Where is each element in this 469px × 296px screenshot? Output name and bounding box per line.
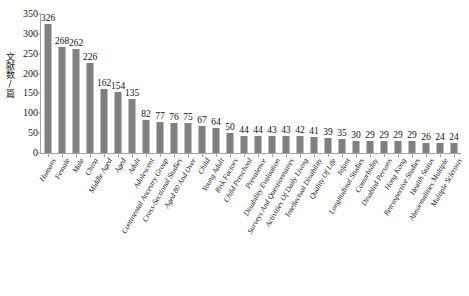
x-axis-category-label: Aged (113, 157, 128, 175)
bar-value-label: 44 (239, 125, 249, 135)
bar-value-label: 75 (183, 112, 193, 122)
bar-item: 41 (307, 14, 321, 153)
bar (213, 128, 220, 153)
bar (353, 141, 360, 153)
bar-value-label: 41 (309, 126, 319, 136)
bar-item: 82 (139, 14, 153, 153)
bar-value-label: 30 (351, 130, 361, 140)
bar-value-label: 39 (323, 127, 333, 137)
y-axis-tick-mark (38, 133, 41, 134)
bar-item: 24 (433, 14, 447, 153)
bar (283, 136, 290, 153)
bar-item: 76 (167, 14, 181, 153)
bar (339, 139, 346, 153)
bar-value-label: 43 (281, 125, 291, 135)
y-axis-tick-mark (38, 33, 41, 34)
bar-value-label: 29 (365, 130, 375, 140)
bar (185, 123, 192, 153)
bar (101, 89, 108, 153)
bar-item: 30 (349, 14, 363, 153)
bar-item: 44 (237, 14, 251, 153)
bar-value-label: 162 (97, 78, 111, 88)
y-axis-tick-label: 50 (28, 128, 38, 138)
bar-chart: 文献数/篇 050100150200250300350 326268262226… (0, 0, 469, 296)
bar-item: 135 (125, 14, 139, 153)
bar-value-label: 29 (379, 130, 389, 140)
bar-value-label: 154 (111, 81, 125, 91)
bar-item: 26 (419, 14, 433, 153)
bar (199, 126, 206, 153)
bar-item: 43 (265, 14, 279, 153)
y-axis-tick-labels: 050100150200250300350 (14, 14, 38, 153)
bar (437, 143, 444, 153)
bar-item: 42 (293, 14, 307, 153)
bar (409, 141, 416, 153)
bar-value-label: 44 (253, 125, 263, 135)
bar-item: 29 (363, 14, 377, 153)
bar-item: 262 (69, 14, 83, 153)
bar-item: 29 (405, 14, 419, 153)
bar-value-label: 35 (337, 128, 347, 138)
bar (451, 143, 458, 153)
bar-value-label: 82 (141, 109, 151, 119)
bar (395, 141, 402, 153)
bar-value-label: 29 (393, 130, 403, 140)
bar-item: 24 (447, 14, 461, 153)
bar-value-label: 24 (435, 132, 445, 142)
bar-value-label: 50 (225, 122, 235, 132)
y-axis-title: 文献数/篇 (1, 52, 15, 98)
y-axis-tick-label: 350 (23, 9, 38, 19)
bar (143, 120, 150, 153)
bar (269, 136, 276, 153)
bar (381, 141, 388, 153)
y-axis-tick-mark (38, 153, 41, 154)
bar-item: 77 (153, 14, 167, 153)
bar-value-label: 42 (295, 125, 305, 135)
bar-value-label: 43 (267, 125, 277, 135)
bar-item: 154 (111, 14, 125, 153)
bar (157, 122, 164, 153)
y-axis-tick-label: 300 (23, 29, 38, 39)
bar-value-label: 24 (449, 132, 459, 142)
bar (115, 92, 122, 153)
bar (325, 138, 332, 153)
bar-series: 3262682622261621541358277767567645044444… (41, 14, 461, 153)
bar-value-label: 26 (421, 132, 431, 142)
bar-value-label: 226 (83, 52, 97, 62)
bar (367, 141, 374, 153)
bar-item: 35 (335, 14, 349, 153)
bar-item: 29 (377, 14, 391, 153)
y-axis-tick-label: 250 (23, 49, 38, 59)
bar-item: 326 (41, 14, 55, 153)
bar-value-label: 64 (211, 117, 221, 127)
y-axis-tick-label: 100 (23, 108, 38, 118)
bar (73, 49, 80, 153)
x-axis-category-labels: HumansFemaleMaleChinaMiddle AgedAgedAdul… (41, 157, 461, 293)
y-axis-tick-mark (38, 14, 41, 15)
bar-item: 75 (181, 14, 195, 153)
bar-value-label: 76 (169, 112, 179, 122)
bar-value-label: 326 (41, 13, 55, 23)
y-axis-tick-mark (38, 93, 41, 94)
y-axis-tick-mark (38, 113, 41, 114)
bar-item: 50 (223, 14, 237, 153)
bar-value-label: 67 (197, 115, 207, 125)
bar (311, 137, 318, 153)
bar (227, 133, 234, 153)
y-axis-tick-mark (38, 73, 41, 74)
y-axis-tick-label: 200 (23, 69, 38, 79)
bar (297, 136, 304, 153)
bar (171, 123, 178, 153)
bar-item: 44 (251, 14, 265, 153)
y-axis-tick-label: 150 (23, 88, 38, 98)
bar-value-label: 77 (155, 111, 165, 121)
bar-value-label: 135 (125, 88, 139, 98)
bar-item: 43 (279, 14, 293, 153)
bar-value-label: 262 (69, 38, 83, 48)
bar-item: 268 (55, 14, 69, 153)
bar-item: 29 (391, 14, 405, 153)
bar-item: 64 (209, 14, 223, 153)
bar-value-label: 29 (407, 130, 417, 140)
bar-item: 67 (195, 14, 209, 153)
bar-value-label: 268 (55, 36, 69, 46)
